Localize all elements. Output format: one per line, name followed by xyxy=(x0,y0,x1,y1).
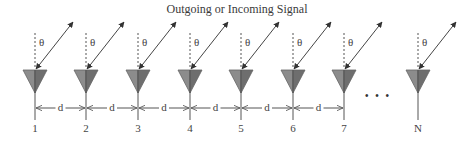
spacing-d-label: d xyxy=(213,101,219,113)
antenna-triangle-icon xyxy=(126,70,138,93)
theta-label: θ xyxy=(422,36,427,48)
antenna-triangle-icon xyxy=(406,70,418,93)
element-index-label: 2 xyxy=(83,122,89,134)
element-index-label: 1 xyxy=(32,122,38,134)
antenna-triangle-icon xyxy=(23,70,35,93)
element-index-label: 6 xyxy=(290,122,296,134)
antenna-element-2: θ2 xyxy=(74,22,124,134)
spacing-dimension: d xyxy=(191,101,240,113)
spacing-d-label: d xyxy=(264,101,270,113)
theta-label: θ xyxy=(142,36,147,48)
theta-label: θ xyxy=(194,36,199,48)
spacing-d-label: d xyxy=(109,101,115,113)
spacing-d-label: d xyxy=(161,101,167,113)
element-index-label: 3 xyxy=(135,122,141,134)
spacing-dimension: d xyxy=(139,101,189,113)
antenna-element-4: θ4 xyxy=(178,22,228,134)
antenna-triangle-icon xyxy=(281,70,293,93)
spacing-d-label: d xyxy=(58,101,64,113)
theta-label: θ xyxy=(245,36,250,48)
spacing-dimension: d xyxy=(242,101,292,113)
antenna-triangle-icon xyxy=(178,70,190,93)
antenna-element-1: θ1 xyxy=(23,22,73,134)
element-index-label: 7 xyxy=(341,122,347,134)
theta-label: θ xyxy=(90,36,95,48)
antenna-triangle-icon xyxy=(332,70,344,93)
antenna-element-7: θ7 xyxy=(332,22,382,134)
ellipsis: • • • xyxy=(365,90,391,101)
uniform-linear-array-diagram: Outgoing or Incoming Signal θ1θ2θ3θ4θ5θ6… xyxy=(0,0,475,141)
spacing-dimension: d xyxy=(36,101,85,113)
theta-label: θ xyxy=(297,36,302,48)
antenna-element-3: θ3 xyxy=(126,22,176,134)
antenna-triangle-icon xyxy=(229,70,241,93)
theta-label: θ xyxy=(348,36,353,48)
antenna-element-N: θN xyxy=(406,22,456,134)
spacing-d-label: d xyxy=(316,101,322,113)
element-index-label: 4 xyxy=(187,122,193,134)
spacing-dimension: d xyxy=(87,101,137,113)
antenna-element-5: θ5 xyxy=(229,22,279,134)
antenna-element-6: θ6 xyxy=(281,22,331,134)
element-index-label: 5 xyxy=(238,122,244,134)
element-index-label: N xyxy=(414,122,422,134)
antenna-triangle-icon xyxy=(74,70,86,93)
spacing-dimension: d xyxy=(294,101,343,113)
theta-label: θ xyxy=(39,36,44,48)
diagram-title: Outgoing or Incoming Signal xyxy=(167,2,309,16)
